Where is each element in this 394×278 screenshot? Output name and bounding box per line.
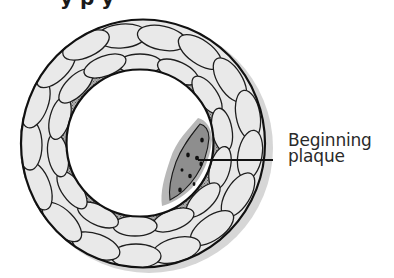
plaque-label-line-2: plaque <box>288 148 372 164</box>
artery-diagram: y p y <box>0 0 394 278</box>
plaque-label: Beginning plaque <box>288 132 372 164</box>
